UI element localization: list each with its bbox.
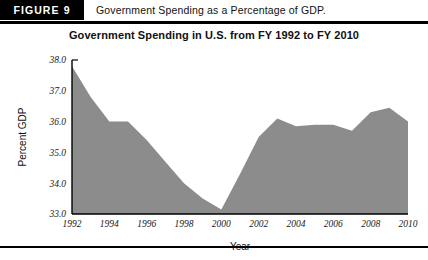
page-bottom-divider <box>0 246 428 248</box>
x-tick-1998: 1998 <box>175 219 194 229</box>
area-chart: 33.034.035.036.037.038.0 199219941996199… <box>0 24 428 260</box>
figure-page: FIGURE 9 Government Spending as a Percen… <box>0 0 428 260</box>
x-tick-1992: 1992 <box>63 219 82 229</box>
figure-number-badge: FIGURE 9 <box>0 0 84 20</box>
x-tick-2004: 2004 <box>287 219 306 229</box>
y-tick-33.0: 33.0 <box>48 209 66 219</box>
figure-caption: Government Spending as a Percentage of G… <box>96 2 426 18</box>
x-tick-2010: 2010 <box>399 219 418 229</box>
x-axis-tick-labels: 1992199419961998200020022004200620082010 <box>63 219 418 229</box>
chart-container: Government Spending in U.S. from FY 1992… <box>0 24 428 260</box>
x-tick-1994: 1994 <box>100 219 119 229</box>
figure-header: FIGURE 9 Government Spending as a Percen… <box>0 0 428 22</box>
x-tick-1996: 1996 <box>137 219 156 229</box>
x-tick-2002: 2002 <box>249 219 268 229</box>
x-tick-2008: 2008 <box>361 219 380 229</box>
y-tick-34.0: 34.0 <box>48 179 66 189</box>
y-axis-title: Percent GDP <box>17 107 28 166</box>
y-tick-37.0: 37.0 <box>48 86 66 96</box>
y-tick-38.0: 38.0 <box>48 55 66 65</box>
y-tick-36.0: 36.0 <box>48 117 66 127</box>
y-tick-35.0: 35.0 <box>48 148 66 158</box>
y-axis-tick-labels: 33.034.035.036.037.038.0 <box>48 55 66 219</box>
x-tick-2000: 2000 <box>212 219 231 229</box>
x-tick-2006: 2006 <box>324 219 343 229</box>
